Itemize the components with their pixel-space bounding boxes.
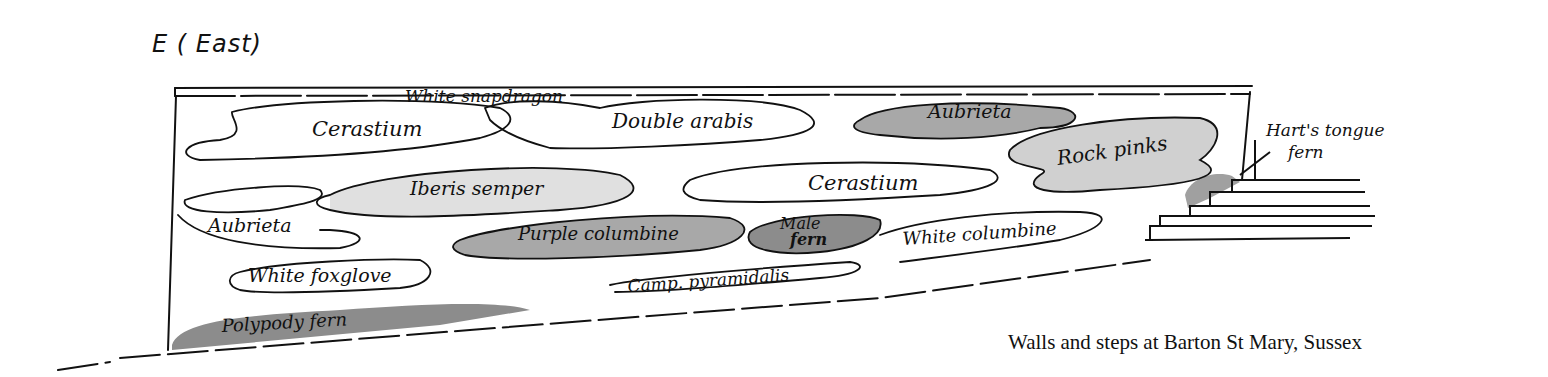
label-white-foxglove: White foxglove <box>248 264 392 286</box>
wall-planting-diagram: White snapdragon Cerastium Double arabis… <box>0 0 1548 377</box>
diagram-caption: Walls and steps at Barton St Mary, Susse… <box>1008 330 1362 355</box>
label-purple-columbine: Purple columbine <box>517 223 679 244</box>
wall-top-line <box>175 86 1252 88</box>
label-iberis-semper: Iberis semper <box>409 177 545 199</box>
label-aubrieta-1: Aubrieta <box>926 100 1012 122</box>
label-cerastium-1: Cerastium <box>312 117 422 141</box>
label-white-snapdragon: White snapdragon <box>405 86 563 106</box>
label-camp-pyramidalis: Camp. pyramidalis <box>627 265 790 296</box>
label-male-fern-2: fern <box>789 230 827 249</box>
label-double-arabis: Double arabis <box>611 109 753 133</box>
label-aubrieta-2: Aubrieta <box>206 214 292 236</box>
label-cerastium-2: Cerastium <box>808 171 918 195</box>
label-harts-tongue-2: fern <box>1286 142 1323 162</box>
wall-left-edge <box>168 96 176 350</box>
label-harts-tongue-1: Hart's tongue <box>1265 120 1385 140</box>
